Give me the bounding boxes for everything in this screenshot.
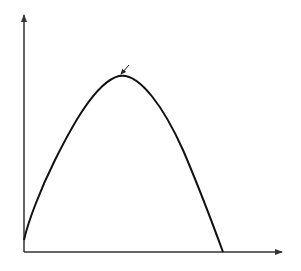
boundary-curve	[24, 76, 223, 252]
label-pointer-arrow	[121, 65, 129, 74]
diagram-canvas	[0, 0, 301, 271]
axes	[24, 15, 282, 252]
finite-difference-diagram	[0, 0, 301, 271]
